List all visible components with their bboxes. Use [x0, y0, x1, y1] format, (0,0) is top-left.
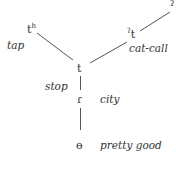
edge-glottalized-plain — [90, 42, 127, 63]
edge-glottalized-glottal-stop — [140, 12, 170, 31]
aspiration-superscript: h — [31, 22, 36, 30]
node-zero: ɵ — [76, 140, 83, 151]
edge-aspirated-plain — [37, 33, 73, 60]
gloss-tap: tap — [7, 40, 24, 51]
gloss-city: city — [100, 94, 119, 105]
node-aspirated-t: th — [27, 24, 36, 35]
node-flap: ɾ — [77, 94, 82, 105]
node-glottal-stop: ʔ — [170, 0, 174, 8]
gloss-cat-call: cat-call — [129, 43, 168, 54]
node-glottalized-t: ʔt — [127, 29, 135, 40]
gloss-stop: stop — [45, 81, 68, 92]
glottalized-base: t — [131, 28, 135, 41]
node-plain-t: t — [77, 63, 81, 74]
glottal-prefix: ʔ — [127, 27, 131, 35]
gloss-pretty-good: pretty good — [100, 140, 162, 151]
